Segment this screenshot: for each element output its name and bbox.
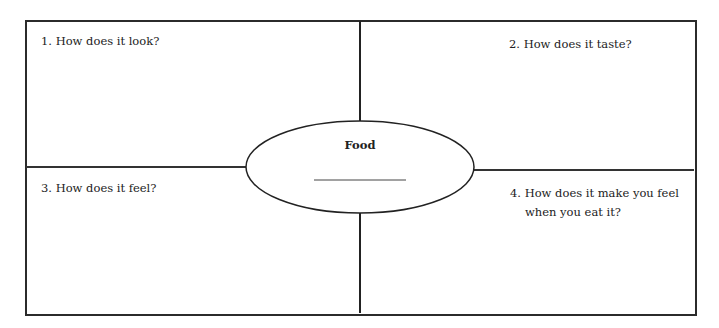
quadrant-number: 1. [41,34,52,48]
quadrant-3-question: 3. How does it feel? [41,179,156,198]
quadrant-2-question: 2. How does it taste? [509,35,632,54]
quadrant-4-question: 4. How does it make you feel when you ea… [510,184,679,222]
quadrant-text-line2: when you eat it? [510,203,679,222]
quadrant-number: 3. [41,181,52,195]
quadrant-text-line1: How does it make you feel [525,186,679,200]
center-title: Food [300,138,420,152]
quadrant-number: 4. [510,186,521,200]
quadrant-text: How does it feel? [56,181,157,195]
quadrant-1-question: 1. How does it look? [41,32,159,51]
quadrant-text: How does it taste? [524,37,632,51]
quadrant-text: How does it look? [56,34,160,48]
quadrant-number: 2. [509,37,520,51]
